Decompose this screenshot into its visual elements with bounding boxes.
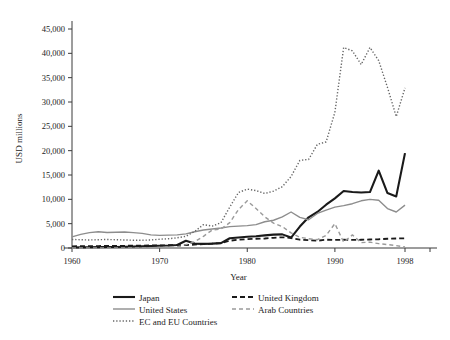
- x-tick-label: 1970: [151, 256, 168, 266]
- y-tick-label: 10,000: [42, 194, 65, 204]
- y-tick-label: 35,000: [42, 73, 65, 83]
- x-axis-ticks: 19601970198019901998: [64, 248, 431, 266]
- series-lines: [72, 47, 405, 248]
- chart-container: 05,00010,00015,00020,00025,00030,00035,0…: [0, 0, 450, 340]
- y-tick-label: 40,000: [42, 48, 65, 58]
- series-line-japan: [72, 153, 405, 247]
- y-axis-title: USD millions: [14, 113, 24, 163]
- series-line-ec-and-eu-countries: [72, 47, 405, 240]
- line-chart: 05,00010,00015,00020,00025,00030,00035,0…: [0, 0, 450, 340]
- series-line-arab-countries: [72, 201, 405, 248]
- x-tick-label: 1980: [239, 256, 256, 266]
- x-axis-title: Year: [230, 272, 247, 282]
- y-axis-ticks: 05,00010,00015,00020,00025,00030,00035,0…: [42, 24, 72, 253]
- y-tick-label: 30,000: [42, 97, 65, 107]
- chart-legend: JapanUnited KingdomUnited StatesArab Cou…: [113, 293, 319, 327]
- legend-label-united-states[interactable]: United States: [139, 305, 188, 315]
- y-tick-label: 20,000: [42, 146, 65, 156]
- y-tick-label: 15,000: [42, 170, 65, 180]
- legend-label-united-kingdom[interactable]: United Kingdom: [258, 293, 319, 303]
- x-tick-label: 1960: [64, 256, 81, 266]
- x-tick-label: 1998: [397, 256, 414, 266]
- legend-label-ec-and-eu-countries[interactable]: EC and EU Countries: [139, 317, 218, 327]
- series-line-united-states: [72, 199, 405, 236]
- y-tick-label: 25,000: [42, 121, 65, 131]
- x-tick-label: 1990: [326, 256, 343, 266]
- y-tick-label: 5,000: [46, 219, 65, 229]
- legend-label-arab-countries[interactable]: Arab Countries: [258, 305, 314, 315]
- y-tick-label: 45,000: [42, 24, 65, 34]
- legend-label-japan[interactable]: Japan: [139, 293, 160, 303]
- series-line-united-kingdom: [72, 237, 405, 246]
